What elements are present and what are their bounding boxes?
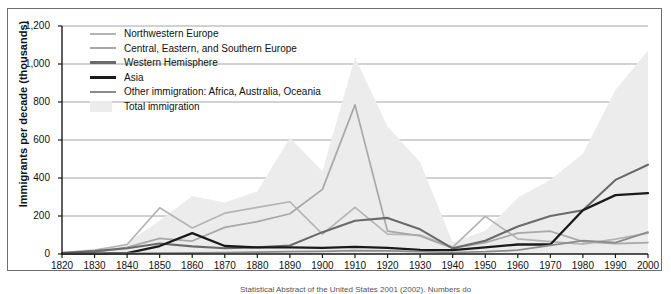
legend-swatch-icon [90, 91, 116, 93]
legend-item-northwestern-europe[interactable]: Northwestern Europe [90, 28, 219, 39]
legend-item-central-eastern-and-southern-europe[interactable]: Central, Eastern, and Southern Europe [90, 43, 297, 54]
legend-swatch-icon [90, 47, 116, 49]
legend-label: Northwestern Europe [124, 28, 219, 39]
y-tick-label-1200: 1,200 [10, 20, 50, 31]
legend-label: Other immigration: Africa, Australia, Oc… [124, 86, 321, 97]
figure-container: Immigrants per decade (thousands) 020040… [0, 0, 671, 294]
legend-swatch-icon [90, 101, 112, 112]
legend-label: Central, Eastern, and Southern Europe [124, 43, 297, 54]
legend-swatch-icon [90, 76, 116, 79]
legend-item-other-immigration-africa-australia-oceania[interactable]: Other immigration: Africa, Australia, Oc… [90, 86, 321, 97]
y-tick-label-200: 200 [10, 210, 50, 221]
y-axis-label: Immigrants per decade (thousands) [17, 0, 29, 229]
y-tick-label-600: 600 [10, 134, 50, 145]
y-tick-label-1000: 1,000 [10, 58, 50, 69]
figure-caption: Statistical Abstract of the United State… [240, 284, 671, 294]
y-tick-label-0: 0 [10, 248, 50, 259]
y-tick-label-800: 800 [10, 96, 50, 107]
legend-swatch-icon [90, 61, 116, 63]
x-tick-label-2000: 2000 [628, 260, 668, 271]
legend-swatch-icon [90, 33, 116, 35]
legend-item-western-hemisphere[interactable]: Western Hemisphere [90, 57, 218, 68]
legend-item-asia[interactable]: Asia [90, 72, 143, 83]
legend-label: Total immigration [124, 101, 200, 112]
legend-label: Western Hemisphere [124, 57, 218, 68]
legend-item-total-immigration[interactable]: Total immigration [90, 101, 200, 112]
legend-label: Asia [124, 72, 143, 83]
y-tick-label-400: 400 [10, 172, 50, 183]
